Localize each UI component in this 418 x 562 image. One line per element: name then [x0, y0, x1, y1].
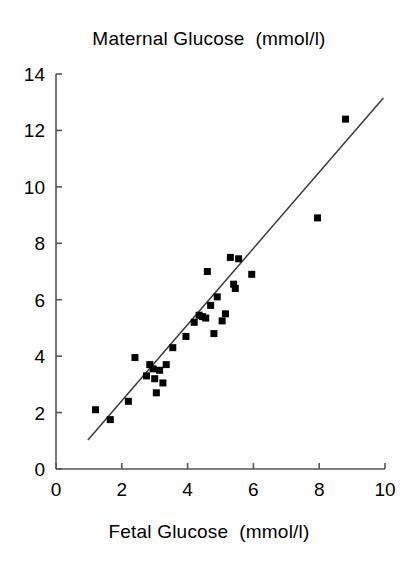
data-point — [156, 367, 163, 374]
data-point — [222, 310, 229, 317]
data-point — [235, 255, 242, 262]
data-point — [219, 317, 226, 324]
data-point — [182, 333, 189, 340]
data-point — [214, 293, 221, 300]
data-point — [92, 406, 99, 413]
x-tick-label: 8 — [314, 479, 325, 500]
scatter-plot: 0246810 02468101214 — [0, 0, 418, 562]
data-point — [191, 319, 198, 326]
regression-line — [88, 98, 383, 440]
x-tick-label: 10 — [374, 479, 395, 500]
data-point — [232, 285, 239, 292]
y-tick-label: 8 — [34, 233, 45, 254]
data-point — [314, 214, 321, 221]
data-point — [151, 375, 158, 382]
figure-container: Maternal Glucose (mmol/l) 0246810 024681… — [0, 0, 418, 562]
x-tick-label: 4 — [182, 479, 193, 500]
data-point — [159, 379, 166, 386]
y-tick-label: 10 — [24, 177, 45, 198]
trend-line — [88, 98, 383, 440]
data-point — [125, 398, 132, 405]
y-tick-label: 0 — [34, 459, 45, 480]
x-tick-label: 2 — [117, 479, 128, 500]
data-point — [131, 354, 138, 361]
data-point — [163, 361, 170, 368]
data-point — [248, 271, 255, 278]
y-tick-label: 14 — [24, 64, 46, 85]
data-point — [207, 302, 214, 309]
data-point — [204, 268, 211, 275]
y-tick-label: 4 — [34, 346, 45, 367]
data-point — [150, 365, 157, 372]
data-point — [107, 416, 114, 423]
data-point — [342, 116, 349, 123]
data-point — [143, 372, 150, 379]
data-point — [202, 315, 209, 322]
y-tick-label: 6 — [34, 290, 45, 311]
y-tick-label: 2 — [34, 403, 45, 424]
x-axis-label: Fetal Glucose (mmol/l) — [0, 521, 418, 543]
data-point-group — [92, 116, 349, 423]
data-point — [153, 389, 160, 396]
data-point — [169, 344, 176, 351]
y-tick-label: 12 — [24, 120, 45, 141]
data-point — [210, 330, 217, 337]
axis-lines — [56, 74, 385, 469]
x-tick-label: 6 — [248, 479, 259, 500]
x-tick-label: 0 — [51, 479, 62, 500]
data-point — [227, 254, 234, 261]
